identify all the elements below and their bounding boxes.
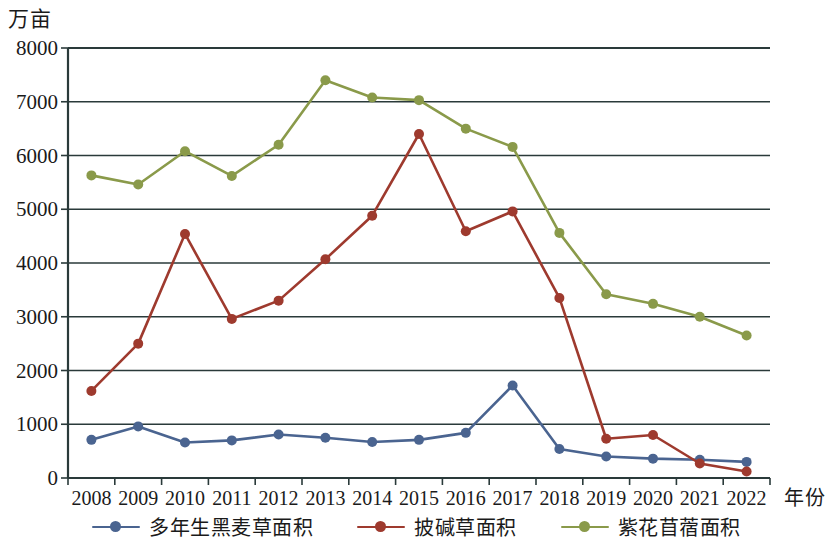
plot-area xyxy=(68,48,770,478)
data-point xyxy=(180,438,190,448)
series-line xyxy=(91,80,746,335)
data-point xyxy=(508,206,518,216)
plot-canvas xyxy=(68,48,770,478)
data-point xyxy=(648,454,658,464)
data-point xyxy=(180,146,190,156)
data-point xyxy=(86,170,96,180)
y-tick-label: 0 xyxy=(0,468,58,489)
data-point xyxy=(648,430,658,440)
data-point xyxy=(367,92,377,102)
data-point xyxy=(180,229,190,239)
chart-legend: 多年生黑麦草面积披碱草面积紫花苜蓿面积 xyxy=(0,512,833,541)
legend-item[interactable]: 披碱草面积 xyxy=(357,512,517,541)
data-point xyxy=(742,331,752,341)
data-point xyxy=(461,124,471,134)
data-point xyxy=(601,289,611,299)
data-point xyxy=(695,458,705,468)
y-tick-label: 6000 xyxy=(0,146,58,167)
data-point xyxy=(601,452,611,462)
data-point xyxy=(601,434,611,444)
x-tick-label: 2022 xyxy=(717,488,777,508)
data-point xyxy=(274,140,284,150)
data-point xyxy=(554,293,564,303)
legend-dot-icon xyxy=(579,521,590,532)
data-point xyxy=(274,296,284,306)
y-tick-label: 7000 xyxy=(0,92,58,113)
legend-item[interactable]: 紫花苜蓿面积 xyxy=(561,512,741,541)
data-point xyxy=(648,299,658,309)
data-point xyxy=(133,339,143,349)
data-point xyxy=(274,429,284,439)
x-axis-title: 年份 xyxy=(784,482,826,511)
data-point xyxy=(320,254,330,264)
data-point xyxy=(508,142,518,152)
data-point xyxy=(133,180,143,190)
data-point xyxy=(367,211,377,221)
data-point xyxy=(414,435,424,445)
legend-label: 多年生黑麦草面积 xyxy=(149,512,313,541)
legend-marker-icon xyxy=(357,520,405,534)
legend-dot-icon xyxy=(375,521,386,532)
line-chart: 万亩 010002000300040005000600070008000 200… xyxy=(0,0,833,544)
y-axis-title: 万亩 xyxy=(8,2,52,32)
data-point xyxy=(367,437,377,447)
data-point xyxy=(554,444,564,454)
data-point xyxy=(227,171,237,181)
data-point xyxy=(227,314,237,324)
legend-dot-icon xyxy=(110,521,121,532)
data-point xyxy=(554,228,564,238)
legend-marker-icon xyxy=(561,520,609,534)
data-point xyxy=(86,386,96,396)
data-point xyxy=(461,428,471,438)
data-point xyxy=(508,381,518,391)
data-point xyxy=(133,421,143,431)
y-tick-label: 3000 xyxy=(0,307,58,328)
series-3 xyxy=(86,75,751,340)
y-tick-label: 8000 xyxy=(0,38,58,59)
data-point xyxy=(320,433,330,443)
data-point xyxy=(461,226,471,236)
data-point xyxy=(414,129,424,139)
y-tick-label: 4000 xyxy=(0,253,58,274)
data-point xyxy=(86,435,96,445)
legend-label: 披碱草面积 xyxy=(414,512,517,541)
legend-label: 紫花苜蓿面积 xyxy=(618,512,741,541)
data-point xyxy=(742,457,752,467)
y-tick-label: 1000 xyxy=(0,414,58,435)
data-point xyxy=(414,95,424,105)
data-point xyxy=(320,75,330,85)
data-point xyxy=(742,467,752,477)
legend-item[interactable]: 多年生黑麦草面积 xyxy=(92,512,313,541)
y-tick-label: 2000 xyxy=(0,361,58,382)
legend-marker-icon xyxy=(92,520,140,534)
data-point xyxy=(695,312,705,322)
data-point xyxy=(227,435,237,445)
y-tick-label: 5000 xyxy=(0,199,58,220)
